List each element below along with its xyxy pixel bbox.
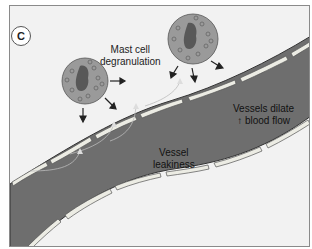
mast-cell-label-line1: Mast cell [100,44,161,56]
vessels-dilate-line1: Vessels dilate [233,103,294,115]
figure-panel: C Mast cell degranulation Vessel leakine… [9,5,310,247]
vessel-leakiness-label: Vessel leakiness [153,147,195,171]
mast-cell-right [168,14,218,64]
mast-cell-label: Mast cell degranulation [100,44,161,68]
mast-cell-label-line2: degranulation [100,56,161,68]
vessels-dilate-line2: ↑ blood flow [233,115,294,127]
panel-label-badge: C [11,26,31,46]
vessels-dilate-label: Vessels dilate ↑ blood flow [233,103,294,127]
vessel-leakiness-line2: leakiness [153,159,195,171]
vessel-leakiness-line1: Vessel [153,147,195,159]
